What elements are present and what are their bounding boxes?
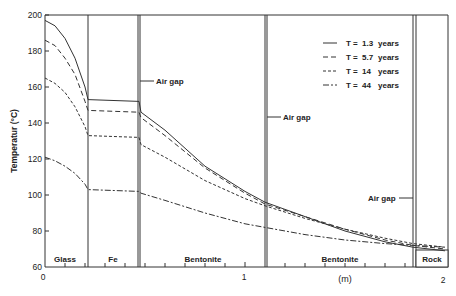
x-tick-1: 1 xyxy=(242,272,247,282)
legend-unit: years xyxy=(378,39,399,48)
air-gap-annotations xyxy=(140,81,413,198)
legend-t-label: T = xyxy=(346,39,358,48)
y-tick-140: 140 xyxy=(28,118,42,128)
legend-item-3: T = 14 years xyxy=(323,67,399,76)
y-tick-80: 80 xyxy=(33,226,43,236)
air-gap-label-3: Air gap xyxy=(368,194,396,203)
chart-svg: 200 180 160 140 120 100 80 60 0 1 2 (m) … xyxy=(0,0,456,296)
region-label-rock: Rock xyxy=(422,255,442,264)
legend-unit: years xyxy=(378,53,399,62)
series-line-3 xyxy=(45,78,445,247)
legend-item-2: T = 5.7 years xyxy=(323,53,399,62)
y-tick-160: 160 xyxy=(28,82,42,92)
legend-t-label: T = xyxy=(346,81,358,90)
air-gap-label-2: Air gap xyxy=(283,113,311,122)
y-tick-labels: 200 180 160 140 120 100 80 60 xyxy=(28,10,42,272)
region-label-glass: Glass xyxy=(54,255,76,264)
y-tick-100: 100 xyxy=(28,190,42,200)
y-tick-200: 200 xyxy=(28,10,42,20)
x-ticks xyxy=(65,262,425,267)
y-ticks xyxy=(45,15,49,231)
legend-unit: years xyxy=(378,81,399,90)
legend-unit: years xyxy=(378,67,399,76)
legend-t-label: T = xyxy=(346,67,358,76)
legend: T = 1.3 years T = 5.7 years T = 14 years… xyxy=(323,39,399,90)
x-tick-2: 2 xyxy=(441,275,446,285)
legend-item-4: T = 44 years xyxy=(323,81,399,90)
y-tick-180: 180 xyxy=(28,46,42,56)
region-label-bentonite-1: Bentonite xyxy=(185,255,222,264)
legend-value: 1.3 xyxy=(362,39,374,48)
legend-value: 14 xyxy=(362,67,371,76)
y-axis-label: Temperatur (°C) xyxy=(9,109,19,173)
region-label-fe: Fe xyxy=(108,255,118,264)
y-tick-60: 60 xyxy=(33,262,43,272)
x-tick-0: 0 xyxy=(41,272,46,282)
legend-item-1: T = 1.3 years xyxy=(323,39,399,48)
x-axis-label: (m) xyxy=(338,274,352,284)
region-labels: Glass Fe Bentonite Bentonite xyxy=(54,255,359,264)
legend-value: 5.7 xyxy=(362,53,374,62)
temperature-chart: 200 180 160 140 120 100 80 60 0 1 2 (m) … xyxy=(0,0,456,296)
region-label-bentonite-2: Bentonite xyxy=(322,255,359,264)
legend-t-label: T = xyxy=(346,53,358,62)
air-gap-label-1: Air gap xyxy=(156,77,184,86)
y-tick-120: 120 xyxy=(28,154,42,164)
x-tick-labels: 0 1 2 xyxy=(41,272,446,285)
legend-value: 44 xyxy=(362,81,371,90)
